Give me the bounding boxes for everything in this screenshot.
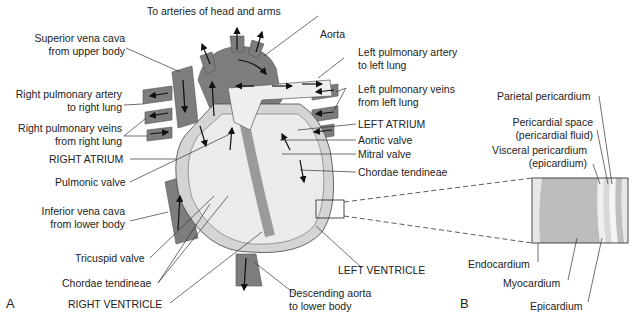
- label-arteries-head-arms: To arteries of head and arms: [147, 5, 281, 18]
- panel-b-letter: B: [460, 296, 469, 311]
- label-right-ventricle: RIGHT VENTRICLE: [68, 298, 162, 311]
- label-right-pulmonary-artery: Right pulmonary artery to right lung: [16, 88, 122, 114]
- label-epicardium: Epicardium: [530, 300, 583, 313]
- label-parietal-pericardium: Parietal pericardium: [497, 90, 590, 103]
- label-superior-vena-cava: Superior vena cava from upper body: [35, 32, 125, 58]
- label-descending-aorta: Descending aorta to lower body: [289, 287, 371, 313]
- label-left-pulmonary-artery: Left pulmonary artery to left lung: [358, 46, 457, 72]
- label-left-ventricle: LEFT VENTRICLE: [338, 264, 425, 277]
- label-chordae-tendineae-left-side: Chordae tendineae: [358, 166, 447, 179]
- label-visceral-pericardium: Visceral pericardium (epicardium): [492, 144, 587, 170]
- label-left-atrium: LEFT ATRIUM: [358, 118, 425, 131]
- label-aorta: Aorta: [320, 28, 345, 41]
- label-pulmonic-valve: Pulmonic valve: [55, 176, 126, 189]
- label-left-pulmonary-veins: Left pulmonary veins from left lung: [358, 83, 455, 109]
- panel-a-letter: A: [6, 296, 15, 311]
- label-myocardium: Myocardium: [503, 277, 560, 290]
- label-pericardial-space: Pericardial space (pericardial fluid): [512, 116, 593, 142]
- label-right-atrium: RIGHT ATRIUM: [49, 153, 123, 166]
- wall-cross-section: [532, 178, 628, 243]
- label-mitral-valve: Mitral valve: [358, 148, 411, 161]
- label-endocardium: Endocardium: [468, 258, 530, 271]
- label-chordae-tendineae-right-side: Chordae tendineae: [62, 277, 151, 290]
- label-aortic-valve: Aortic valve: [358, 134, 412, 147]
- label-right-pulmonary-veins: Right pulmonary veins from right lung: [18, 122, 122, 148]
- label-inferior-vena-cava: Inferior vena cava from lower body: [42, 205, 125, 231]
- label-tricuspid-valve: Tricuspid valve: [75, 252, 145, 265]
